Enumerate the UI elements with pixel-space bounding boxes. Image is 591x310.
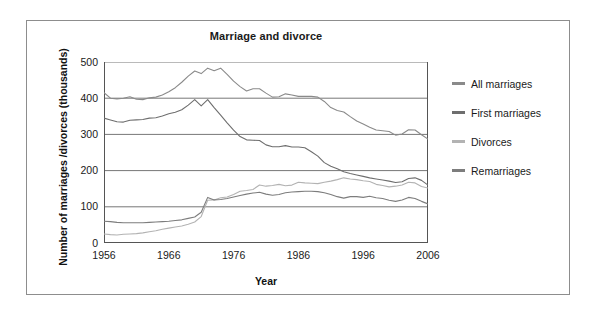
line-swatch-icon — [452, 111, 465, 114]
line-swatch-icon — [452, 169, 465, 172]
y-tick-label-300: 300 — [62, 129, 98, 140]
y-tick-label-200: 200 — [62, 165, 98, 176]
plot-svg — [104, 62, 428, 243]
legend-label: All marriages — [471, 78, 532, 90]
x-tick-label-1976: 1976 — [211, 250, 257, 261]
gridlines — [104, 62, 428, 243]
legend-item-all-marriages[interactable]: All marriages — [452, 69, 567, 98]
series-line-first-marriages — [104, 100, 428, 185]
y-axis-tick-labels: 0100200300400500 — [58, 62, 98, 243]
plot-area — [104, 62, 428, 243]
chart-legend: All marriagesFirst marriagesDivorcesRema… — [452, 69, 567, 185]
y-tick-label-400: 400 — [62, 93, 98, 104]
line-swatch-icon — [452, 140, 465, 143]
series-line-all-marriages — [104, 68, 428, 139]
x-tick-label-1986: 1986 — [275, 250, 321, 261]
y-tick-label-100: 100 — [62, 201, 98, 212]
axis-lines — [104, 62, 428, 243]
legend-item-first-marriages[interactable]: First marriages — [452, 98, 567, 127]
figure-root: Marriage and divorce Number of marriages… — [0, 0, 591, 310]
x-axis-tick-labels: 195619661976198619962006 — [104, 250, 428, 266]
legend-item-divorces[interactable]: Divorces — [452, 127, 567, 156]
legend-label: First marriages — [471, 107, 541, 119]
line-swatch-icon — [452, 82, 465, 85]
x-tick-label-2006: 2006 — [405, 250, 451, 261]
x-tick-label-1996: 1996 — [340, 250, 386, 261]
y-tick-label-0: 0 — [62, 238, 98, 249]
legend-item-remarriages[interactable]: Remarriages — [452, 156, 567, 185]
axis-ticks — [104, 62, 427, 243]
x-axis-title: Year — [104, 275, 428, 287]
y-tick-label-500: 500 — [62, 57, 98, 68]
x-tick-label-1966: 1966 — [146, 250, 192, 261]
data-series-group — [104, 68, 428, 235]
x-tick-label-1956: 1956 — [81, 250, 127, 261]
legend-label: Divorces — [471, 136, 512, 148]
chart-title: Marriage and divorce — [104, 30, 428, 42]
legend-label: Remarriages — [471, 165, 531, 177]
